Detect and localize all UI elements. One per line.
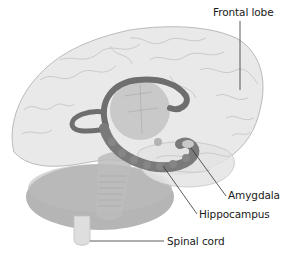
label-frontal-lobe: Frontal lobe (213, 6, 274, 18)
amygdala (182, 140, 194, 148)
label-amygdala: Amygdala (228, 189, 280, 201)
spinal-cord (74, 216, 90, 245)
label-hippocampus: Hippocampus (199, 208, 270, 220)
label-spinal-cord: Spinal cord (167, 235, 225, 247)
